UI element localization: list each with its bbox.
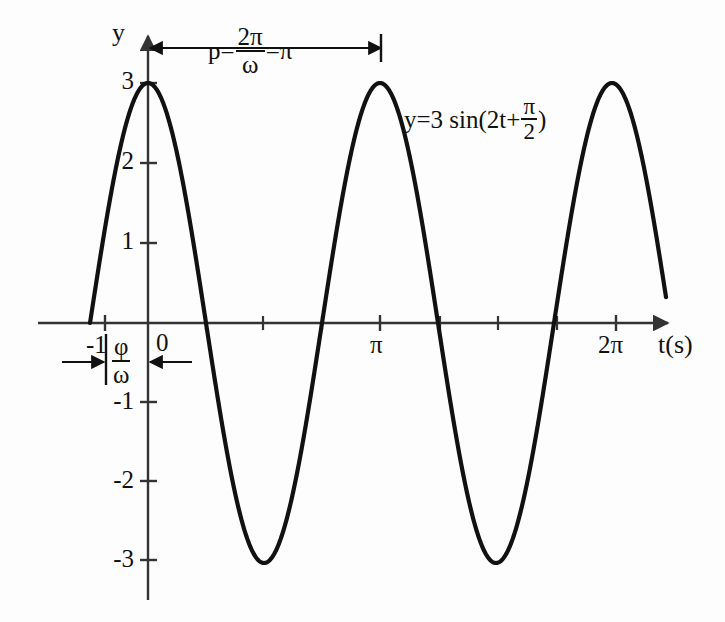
phase-shift-fraction-numerator: φ — [112, 334, 130, 362]
x-tick-label-2pi: 2π — [598, 332, 623, 357]
plot-canvas — [0, 0, 725, 622]
x-tick-label-pi: π — [370, 332, 383, 357]
y-tick-label-neg1: -1 — [100, 388, 134, 413]
period-annotation-label: p= 2π ω =π — [208, 24, 292, 77]
y-tick-label-3: 3 — [110, 68, 134, 93]
y-tick-label-1: 1 — [110, 228, 134, 253]
equation-fraction-denominator: 2 — [521, 120, 537, 143]
equation-fraction: π 2 — [521, 95, 537, 144]
equation-fraction-numerator: π — [521, 95, 537, 120]
x-tick-label-neg1: -1 — [86, 332, 107, 357]
equation-prefix: y=3 sin(2t+ — [404, 107, 520, 132]
equation-suffix: ) — [538, 107, 546, 132]
y-tick-label-2: 2 — [110, 148, 134, 173]
chart-figure: y t(s) 3 2 1 -1 -2 -3 -1 0 π 2π p= 2π ω … — [0, 0, 725, 622]
period-suffix: =π — [266, 38, 293, 63]
period-prefix: p= — [208, 38, 235, 63]
y-axis-label: y — [112, 20, 125, 46]
period-fraction-numerator: 2π — [236, 24, 265, 52]
period-fraction: 2π ω — [236, 24, 265, 77]
phase-shift-fraction-denominator: ω — [111, 362, 131, 388]
period-fraction-denominator: ω — [240, 52, 260, 78]
phase-shift-annotation-label: φ ω — [110, 334, 132, 387]
y-tick-label-neg2: -2 — [100, 467, 134, 492]
equation-annotation-label: y=3 sin(2t+ π 2 ) — [404, 95, 546, 144]
y-tick-label-neg3: -3 — [100, 546, 134, 571]
x-axis-label: t(s) — [658, 332, 693, 358]
phase-shift-fraction: φ ω — [111, 334, 131, 387]
x-tick-label-0: 0 — [156, 330, 169, 355]
